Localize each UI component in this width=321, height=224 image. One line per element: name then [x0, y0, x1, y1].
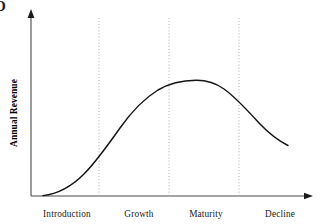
- y-axis-title: Annual Revenue: [9, 79, 19, 147]
- x-axis-label-growth: Growth: [124, 209, 154, 219]
- x-axis-label-maturity: Maturity: [189, 209, 223, 219]
- figure-container: D Annual Revenue Introduction Growth Mat…: [0, 0, 321, 224]
- x-axis-arrowhead: [304, 193, 313, 200]
- y-axis-arrowhead: [28, 9, 35, 18]
- x-axis-label-introduction: Introduction: [43, 209, 91, 219]
- product-life-cycle-curve: [43, 80, 288, 195]
- x-axis-label-decline: Decline: [265, 209, 295, 219]
- product-life-cycle-chart: Annual Revenue Introduction Growth Matur…: [0, 0, 321, 224]
